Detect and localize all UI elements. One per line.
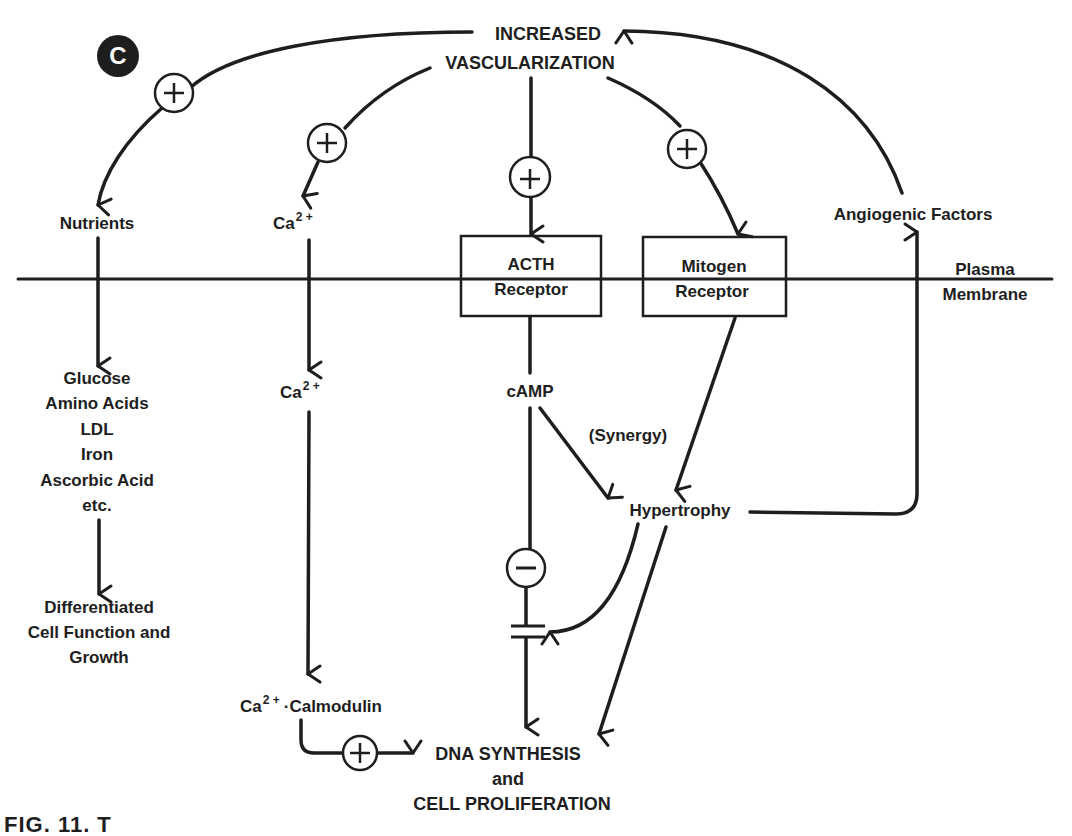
node-nutrients: Nutrients bbox=[60, 214, 135, 233]
arrow-ca-to-calmodulin bbox=[308, 412, 309, 674]
plus-icon-acth bbox=[510, 157, 550, 197]
arrow-vasc-to-mitogen bbox=[608, 78, 680, 126]
arrow-hypertrophy-to-dna bbox=[599, 527, 666, 734]
arrow-vasc-to-nutrients bbox=[190, 32, 472, 88]
minus-icon-camp bbox=[507, 549, 545, 587]
svg-text:Amino Acids: Amino Acids bbox=[45, 394, 148, 413]
arrow-vasc-to-ca bbox=[345, 68, 430, 128]
svg-text:Receptor: Receptor bbox=[494, 280, 568, 299]
acth-receptor-box: ACTH Receptor bbox=[461, 236, 601, 316]
node-camp: cAMP bbox=[506, 382, 553, 401]
node-dna-synthesis: DNA SYNTHESIS and CELL PROLIFERATION bbox=[413, 744, 610, 814]
panel-label-c: C bbox=[97, 35, 139, 77]
plus-icon-mitogen bbox=[668, 130, 706, 168]
plus-icon-calmodulin bbox=[343, 736, 377, 770]
figure-caption: FIG. 11. T bbox=[4, 812, 112, 836]
node-ca-outer: Ca2 + bbox=[273, 210, 313, 233]
arrow-camp-to-hypertrophy bbox=[540, 408, 608, 498]
node-calmodulin: Ca2 +·Calmodulin bbox=[240, 693, 382, 716]
arrow-to-nutrients bbox=[98, 108, 162, 205]
svg-text:etc.: etc. bbox=[82, 496, 111, 515]
label-membrane: Membrane bbox=[942, 285, 1027, 304]
arrow-mitogen-to-hypertrophy bbox=[676, 318, 735, 490]
arrow-hypertrophy-to-angiogenic bbox=[750, 232, 917, 514]
arrow-to-mitogen bbox=[700, 162, 738, 234]
differentiated-function: Differentiated Cell Function and Growth bbox=[28, 598, 171, 667]
arrow-to-ca bbox=[303, 162, 318, 196]
node-vascularization: VASCULARIZATION bbox=[445, 53, 614, 73]
node-hypertrophy: Hypertrophy bbox=[629, 501, 731, 520]
svg-text:CELL PROLIFERATION: CELL PROLIFERATION bbox=[413, 794, 610, 814]
svg-text:Glucose: Glucose bbox=[63, 369, 130, 388]
svg-text:and: and bbox=[492, 769, 524, 789]
node-increased: INCREASED bbox=[495, 24, 601, 44]
svg-text:Ascorbic Acid: Ascorbic Acid bbox=[40, 471, 154, 490]
svg-text:Mitogen: Mitogen bbox=[681, 257, 746, 276]
label-plasma: Plasma bbox=[955, 260, 1015, 279]
node-ca-inner: Ca2 + bbox=[280, 379, 320, 402]
arrow-hypertrophy-to-block bbox=[550, 524, 638, 632]
svg-text:Iron: Iron bbox=[81, 445, 113, 464]
svg-text:LDL: LDL bbox=[80, 420, 113, 439]
svg-text:Receptor: Receptor bbox=[675, 282, 749, 301]
mitogen-receptor-box: Mitogen Receptor bbox=[643, 237, 786, 316]
svg-text:C: C bbox=[109, 42, 126, 69]
svg-text:Differentiated: Differentiated bbox=[44, 598, 154, 617]
arrow-calmodulin-elbow bbox=[301, 720, 343, 753]
svg-text:Cell Function and: Cell Function and bbox=[28, 623, 171, 642]
node-angiogenic-factors: Angiogenic Factors bbox=[834, 205, 993, 224]
label-synergy: (Synergy) bbox=[589, 426, 667, 445]
inhibition-block-icon bbox=[511, 626, 545, 637]
svg-text:ACTH: ACTH bbox=[507, 255, 554, 274]
plus-icon-ca bbox=[308, 124, 346, 162]
svg-text:Growth: Growth bbox=[69, 648, 129, 667]
plus-icon-nutrients bbox=[155, 74, 193, 112]
svg-text:DNA SYNTHESIS: DNA SYNTHESIS bbox=[435, 744, 580, 764]
nutrient-list: Glucose Amino Acids LDL Iron Ascorbic Ac… bbox=[40, 369, 154, 515]
